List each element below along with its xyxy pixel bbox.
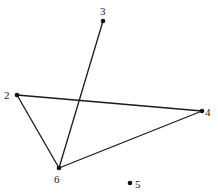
edge-3-6 bbox=[59, 21, 103, 168]
node-3 bbox=[101, 19, 106, 24]
node-label-4: 4 bbox=[205, 106, 211, 118]
node-label-5: 5 bbox=[135, 178, 141, 190]
node-6 bbox=[57, 166, 62, 171]
edge-6-4 bbox=[59, 111, 202, 168]
node-5 bbox=[128, 181, 133, 186]
node-2 bbox=[15, 93, 20, 98]
node-label-6: 6 bbox=[54, 173, 60, 185]
edge-2-4 bbox=[17, 95, 202, 111]
graph-diagram: 23456 bbox=[0, 0, 218, 196]
node-4 bbox=[200, 109, 205, 114]
edge-2-6 bbox=[17, 95, 59, 168]
node-label-3: 3 bbox=[100, 5, 106, 17]
nodes: 23456 bbox=[4, 5, 211, 190]
edges bbox=[17, 21, 202, 168]
node-label-2: 2 bbox=[4, 89, 10, 101]
